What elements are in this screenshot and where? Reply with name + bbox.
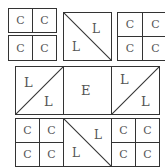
cell-c: C bbox=[16, 119, 40, 143]
tile-middle-center: E bbox=[63, 66, 112, 115]
cell-c: C bbox=[136, 143, 159, 166]
tile-middle-left: L L bbox=[15, 66, 64, 115]
cell-c: C bbox=[112, 119, 136, 143]
tile-bottom-left: C C C C bbox=[15, 118, 64, 167]
tile-bottom-middle: L L bbox=[63, 118, 112, 167]
cell-c: C bbox=[33, 36, 56, 60]
letter-l: L bbox=[44, 95, 53, 108]
letter-l: L bbox=[94, 129, 102, 141]
tile-bottom-right: C C C C bbox=[111, 118, 160, 167]
tile-top-left-lower: C C bbox=[8, 35, 57, 61]
letter-l: L bbox=[72, 41, 80, 53]
letter-e: E bbox=[81, 84, 91, 97]
cell-c: C bbox=[143, 13, 165, 37]
cell-c: C bbox=[118, 13, 143, 37]
cell-c: C bbox=[33, 9, 56, 32]
letter-l: L bbox=[141, 95, 150, 108]
cell-c: C bbox=[40, 119, 63, 143]
cell-c: C bbox=[16, 143, 40, 166]
letter-l: L bbox=[24, 76, 33, 89]
letter-l: L bbox=[92, 23, 100, 35]
cell-c: C bbox=[112, 143, 136, 166]
cell-c: C bbox=[40, 143, 63, 166]
cell-c: C bbox=[136, 119, 159, 143]
cell-c: C bbox=[143, 37, 165, 60]
cell-c: C bbox=[9, 9, 33, 32]
tile-top-middle: L L bbox=[63, 12, 112, 61]
tile-middle-right: L L bbox=[111, 66, 160, 115]
letter-l: L bbox=[120, 73, 129, 86]
letter-l: L bbox=[72, 147, 80, 159]
tile-top-right: C C C C bbox=[117, 12, 165, 61]
tile-top-left-upper: C C bbox=[8, 8, 57, 33]
cell-c: C bbox=[9, 36, 33, 60]
cell-c: C bbox=[118, 37, 143, 60]
